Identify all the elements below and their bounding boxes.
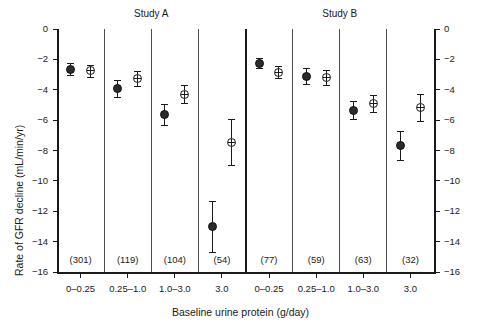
data-point-filled [204,218,220,234]
marker-filled [302,72,311,81]
marker-filled [255,59,264,68]
data-point-open [318,70,334,86]
x-tick [221,274,222,278]
y-tick-label-right: −4 [444,85,478,95]
gfr-decline-chart: Rate of GFR decline (mL/min/yr) 0−2−4−6−… [0,0,481,329]
y-tick-label-left: −10 [15,176,48,186]
error-bar-cap-lower [256,68,263,69]
y-tick-label-right: −6 [444,115,478,125]
x-tick [410,274,411,278]
group-count-label: (32) [380,255,440,265]
y-tick-right [435,59,440,60]
y-tick-right [435,211,440,212]
y-tick-left [53,150,58,151]
error-bar-cap-upper [161,104,168,105]
panel-divider [245,29,247,272]
data-point-filled [63,61,79,77]
y-tick-left [53,59,58,60]
data-point-open [130,70,146,86]
data-point-open [177,86,193,102]
error-bar-cap-upper [67,63,74,64]
y-tick-right [435,272,440,273]
y-tick-label-left: −8 [15,146,48,156]
y-tick-right [435,150,440,151]
y-tick-label-left: −16 [15,267,48,277]
error-bar-cap-lower [181,103,188,104]
y-tick-label-right: −2 [444,54,478,64]
error-bar-cap-upper [417,94,424,95]
x-tick [269,274,270,278]
error-bar-cap-upper [228,119,235,120]
y-tick-label-right: −14 [444,237,478,247]
x-tick [174,274,175,278]
marker-open [369,99,378,108]
marker-open [274,68,283,77]
y-tick-right [435,241,440,242]
y-tick-label-right: −16 [444,267,478,277]
marker-open [86,66,95,75]
data-point-filled [110,80,126,96]
marker-open [227,138,236,147]
panel-title-study-a: Study A [91,9,211,19]
error-bar-cap-upper [134,71,141,72]
y-tick-right [435,29,440,30]
marker-open [133,74,142,83]
x-tick [316,274,317,278]
marker-open [322,73,331,82]
y-tick-left [53,29,58,30]
y-tick-left [53,211,58,212]
error-bar-cap-lower [114,97,121,98]
error-bar-cap-lower [417,121,424,122]
x-tick [127,274,128,278]
error-bar-cap-upper [303,68,310,69]
error-bar-cap-lower [275,78,282,79]
error-bar-cap-lower [350,119,357,120]
marker-filled [396,141,405,150]
group-separator [339,29,340,272]
y-tick-label-left: −6 [15,115,48,125]
x-tick-label: 3.0 [376,284,444,294]
marker-filled [160,110,169,119]
data-point-open [82,63,98,79]
bottom-axis-line [57,272,436,274]
error-bar-cap-upper [209,201,216,202]
marker-filled [208,222,217,231]
x-tick [80,274,81,278]
x-tick [363,274,364,278]
panel-title-study-b: Study B [280,9,400,19]
marker-filled [349,106,358,115]
data-point-open [412,99,428,115]
group-separator [386,29,387,272]
data-point-open [271,64,287,80]
error-bar-cap-upper [181,85,188,86]
group-separator [292,29,293,272]
y-tick-right [435,180,440,181]
error-bar-cap-upper [350,101,357,102]
y-tick-label-right: 0 [444,24,478,34]
error-bar-cap-lower [323,85,330,86]
error-bar-cap-upper [323,70,330,71]
y-tick-label-left: −12 [15,206,48,216]
error-bar-cap-lower [67,75,74,76]
error-bar-cap-lower [303,84,310,85]
y-tick-label-left: −4 [15,85,48,95]
data-point-open [224,134,240,150]
y-tick-label-right: −8 [444,146,478,156]
y-tick-label-left: −14 [15,237,48,247]
error-bar-cap-lower [87,77,94,78]
y-tick-label-right: −10 [444,176,478,186]
y-tick-left [53,272,58,273]
marker-open [180,90,189,99]
y-tick-left [53,241,58,242]
y-tick-right [435,120,440,121]
error-bar-cap-upper [370,95,377,96]
y-tick-label-right: −12 [444,206,478,216]
group-separator [104,29,105,272]
y-tick-label-left: 0 [15,24,48,34]
data-point-open [365,95,381,111]
error-bar-cap-lower [370,112,377,113]
error-bar-cap-upper [114,80,121,81]
data-point-filled [345,102,361,118]
y-tick-left [53,120,58,121]
error-bar-cap-lower [397,160,404,161]
